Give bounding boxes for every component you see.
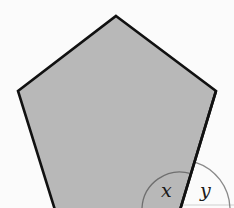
pentagon-diagram: x y bbox=[0, 0, 234, 208]
angle-label-y: y bbox=[199, 179, 211, 201]
pentagon-figure: x y bbox=[0, 0, 234, 208]
angle-label-x: x bbox=[161, 179, 172, 201]
pentagon bbox=[18, 16, 216, 208]
